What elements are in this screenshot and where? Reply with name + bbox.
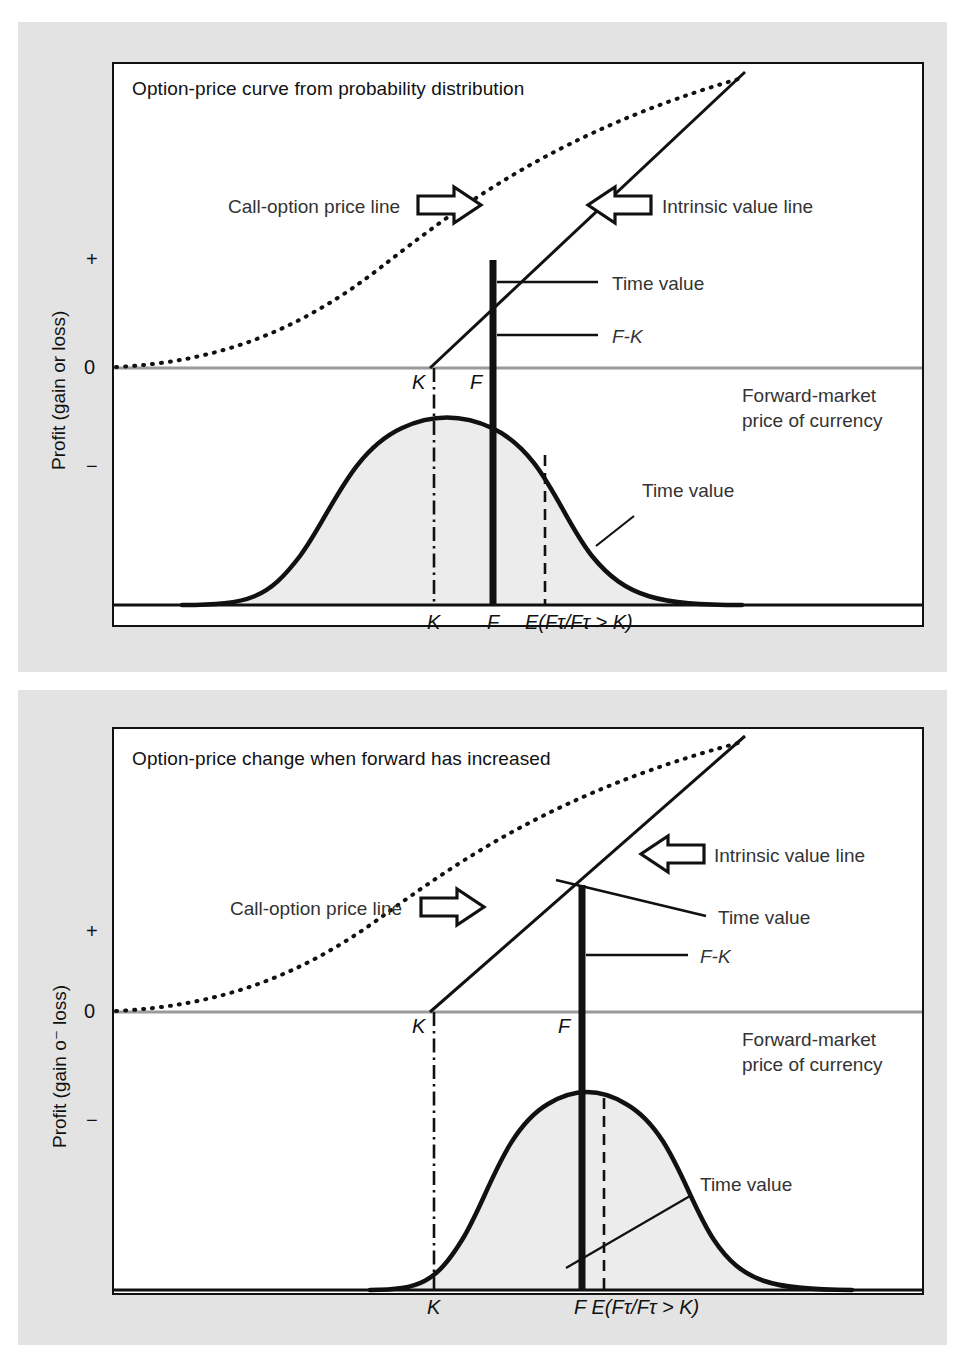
chart-bottom-annotation-intrinsic-value-line: Intrinsic value line [714, 843, 865, 868]
chart-bottom-annotation-time-value-distribution: Time value [700, 1172, 792, 1197]
chart-bottom-baseline-note-line2: price of currency [742, 1052, 882, 1077]
chart-bottom-annotation-f-minus-k: F-K [700, 944, 731, 969]
figure-page: Option-price curve from probability dist… [0, 0, 965, 1370]
chart-bottom-annotation-call-option-price-line: Call-option price line [230, 896, 402, 921]
chart-bottom-artwork [0, 0, 965, 1370]
chart-bottom-baseline-note: Forward-market price of currency [742, 1027, 882, 1077]
chart-bottom-annotation-time-value-upper: Time value [718, 905, 810, 930]
chart-bottom-marker-strike: K [412, 1015, 425, 1038]
chart-bottom-x-tick-strike: K [427, 1296, 440, 1319]
chart-bottom-call-option-price-line [116, 742, 742, 1011]
chart-bottom-intrinsic-value-line [430, 736, 745, 1012]
chart-bottom-marker-forward: F [558, 1015, 570, 1038]
chart-bottom-baseline-note-line1: Forward-market [742, 1027, 882, 1052]
chart-bottom-arrow-left-icon [641, 836, 704, 872]
chart-bottom-arrow-right-icon [421, 889, 484, 925]
chart-bottom-x-tick-forward-expectation: F E(Fτ/Fτ > K) [574, 1296, 699, 1319]
